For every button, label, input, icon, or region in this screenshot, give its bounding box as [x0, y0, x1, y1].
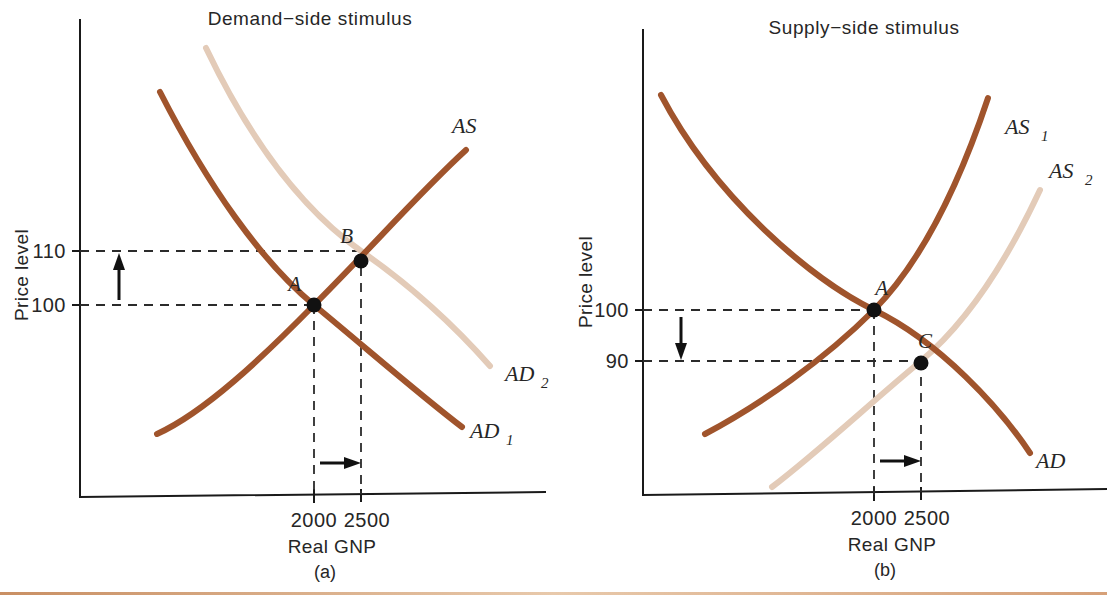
panel-a-x-axis [80, 492, 545, 497]
panel-a-ytick-label-110: 110 [33, 240, 66, 262]
panel-a: Demand−side stimulus Price level 110 100… [11, 8, 549, 582]
panel-b-x-axis-label: Real GNP [848, 534, 937, 555]
panel-b-point-c [914, 356, 929, 371]
as-ad-figure: Demand−side stimulus Price level 110 100… [0, 0, 1107, 606]
panel-b-curve-label-as2-sub: 2 [1085, 172, 1093, 188]
panel-b-title: Supply−side stimulus [768, 17, 959, 38]
panel-a-point-b-label: B [340, 224, 353, 248]
panel-b-xtick-label-2500: 2500 [904, 507, 951, 529]
panel-b-xtick-label-2000: 2000 [851, 507, 898, 529]
panel-b-curve-label-as1-sub: 1 [1041, 128, 1049, 144]
panel-a-xtick-label-2000: 2000 [291, 509, 338, 531]
panel-a-curve-ad2 [206, 48, 490, 366]
panel-b-ytick-label-90: 90 [606, 350, 629, 372]
panel-b-output-right-arrow [880, 455, 921, 467]
panel-a-curve-label-ad2: AD [503, 361, 534, 386]
panel-b-caption: (b) [874, 560, 896, 580]
panel-b-curve-label-as2: AS [1047, 158, 1073, 183]
panel-b-price-down-arrow [675, 317, 687, 360]
panel-a-title: Demand−side stimulus [208, 8, 413, 29]
panel-b-curve-as2 [772, 190, 1040, 487]
panel-b-curve-label-ad: AD [1034, 448, 1065, 473]
panel-b-point-a [867, 303, 882, 318]
panel-a-curve-label-as: AS [450, 113, 476, 138]
panel-b-point-c-label: C [918, 329, 933, 353]
panel-a-x-axis-label: Real GNP [288, 536, 377, 557]
panel-a-point-b [354, 254, 369, 269]
panel-a-price-up-arrow [113, 253, 125, 300]
panel-a-curve-label-ad1-sub: 1 [506, 432, 514, 448]
figure-root: Demand−side stimulus Price level 110 100… [0, 0, 1107, 606]
panel-b-curve-label-as1: AS [1003, 114, 1029, 139]
panel-b-ytick-label-100: 100 [594, 299, 629, 321]
panel-a-point-a [307, 298, 322, 313]
panel-a-caption: (a) [314, 562, 336, 582]
panel-b-curve-ad [661, 95, 1030, 453]
panel-b-curve-as1 [705, 98, 988, 434]
panel-a-curve-ad1 [160, 92, 462, 427]
bottom-accent-rule [0, 592, 1107, 595]
panel-a-point-a-label: A [286, 272, 301, 296]
panel-b-point-a-label: A [873, 276, 888, 300]
panel-a-ytick-label-100: 100 [31, 294, 66, 316]
panel-b-y-axis-label: Price level [575, 236, 596, 328]
panel-a-curve-label-ad2-sub: 2 [541, 375, 549, 391]
panel-b: Supply−side stimulus Price level 100 90 … [575, 17, 1107, 580]
panel-a-xtick-label-2500: 2500 [344, 509, 391, 531]
panel-a-curve-label-ad1: AD [468, 418, 499, 443]
panel-a-y-axis-label: Price level [11, 229, 32, 321]
panel-a-output-right-arrow [320, 457, 361, 469]
